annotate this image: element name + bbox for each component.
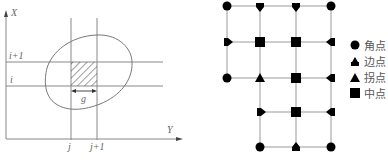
- edge-point-icon: [224, 38, 233, 46]
- edge-point-icon: [326, 108, 335, 116]
- edge-points: [224, 3, 335, 151]
- corner-points: [223, 2, 336, 152]
- node-grid-lines: [227, 6, 331, 147]
- y-axis-arrow-icon: [176, 137, 183, 141]
- legend-label: 拐点: [364, 69, 386, 85]
- legend-label: 边点: [364, 53, 386, 69]
- legend-label: 中点: [364, 85, 386, 101]
- middle-point-icon: [291, 107, 301, 117]
- edge-point-icon: [292, 142, 300, 151]
- corner-point-icon: [256, 143, 265, 152]
- corner-point-icon: [223, 74, 232, 83]
- edge-point-icon: [326, 74, 335, 82]
- middle-point-icon: [255, 37, 265, 47]
- y-axis-label: Y: [167, 125, 173, 135]
- row-label-i1: i+1: [9, 51, 24, 61]
- legend-item-turning: 拐点: [350, 69, 386, 85]
- legend-label: 角点: [364, 37, 386, 53]
- square-icon: [350, 88, 360, 98]
- row-label-i: i: [10, 75, 13, 85]
- legend-item-corner: 角点: [350, 37, 386, 53]
- middle-point-icon: [291, 37, 301, 47]
- edge-triangle-icon: [350, 56, 360, 66]
- grid-integration-diagram: [0, 0, 388, 167]
- cell-width-label: g: [81, 94, 86, 104]
- x-axis-label: X: [11, 8, 17, 18]
- legend-item-middle: 中点: [350, 85, 386, 101]
- x-axis-arrow-icon: [4, 10, 8, 17]
- edge-point-icon: [292, 3, 300, 12]
- column-label-j1: j+1: [90, 142, 105, 152]
- middle-point-icon: [291, 73, 301, 83]
- g-arrow-left-icon: [71, 89, 76, 93]
- corner-point-icon: [327, 143, 336, 152]
- edge-point-icon: [256, 3, 264, 12]
- column-label-j: j: [68, 142, 71, 152]
- edge-point-icon: [257, 108, 266, 116]
- legend-item-edge: 边点: [350, 53, 386, 69]
- hatched-cell: [71, 62, 97, 86]
- legend: 角点 边点 拐点 中点: [350, 37, 386, 101]
- corner-point-icon: [327, 2, 336, 11]
- triangle-icon: [350, 72, 360, 82]
- circle-icon: [350, 40, 360, 50]
- g-arrow-right-icon: [92, 89, 97, 93]
- corner-point-icon: [223, 2, 232, 11]
- edge-point-icon: [326, 38, 335, 46]
